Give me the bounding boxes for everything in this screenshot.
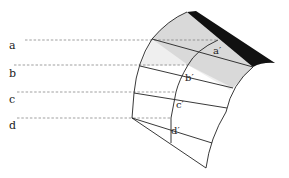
curved-surface-diagram: a b c d a′ b′ c′ d′ <box>0 0 289 178</box>
label-a-prime: a′ <box>213 45 222 56</box>
label-d-prime: d′ <box>171 125 180 136</box>
label-a: a <box>9 39 16 52</box>
label-c-prime: c′ <box>176 99 185 110</box>
row-line-bottom <box>132 118 206 168</box>
label-b-prime: b′ <box>185 72 194 83</box>
label-b: b <box>9 67 16 80</box>
label-c: c <box>9 93 15 106</box>
label-d: d <box>9 119 16 132</box>
